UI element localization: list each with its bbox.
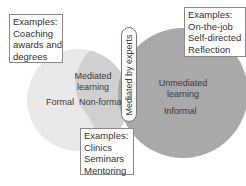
mediated-by-experts-label: Mediated by experts [124, 34, 134, 115]
examples-heading: Examples: [84, 130, 131, 142]
unmediated-title-line2: learning [150, 89, 216, 100]
nonformal-label: Non-formal [79, 97, 124, 108]
unmediated-learning-title: Unmediated learning [150, 78, 216, 100]
example-item: Seminars [84, 153, 131, 165]
example-item: Clinics [84, 142, 131, 154]
example-item: awards and [13, 39, 60, 51]
learning-types-diagram: Mediated learning Formal Non-formal Unme… [0, 0, 246, 186]
example-item: Mentoring [84, 165, 131, 177]
formal-label: Formal [46, 97, 74, 108]
examples-heading: Examples: [13, 16, 60, 28]
mediated-by-experts-divider: Mediated by experts [121, 27, 137, 122]
informal-label: Informal [164, 106, 197, 117]
mediated-title-line1: Mediated [68, 71, 118, 82]
example-item: degrees [13, 51, 60, 63]
example-item: Self-directed [188, 32, 243, 44]
example-item: Coaching [13, 28, 60, 40]
unmediated-title-line1: Unmediated [150, 78, 216, 89]
formal-examples-box: Examples: Coaching awards and degrees [9, 14, 63, 63]
informal-examples-box: Examples: On-the-job Self-directed Refle… [184, 7, 246, 57]
nonformal-examples-box: Examples: Clinics Seminars Mentoring [80, 128, 134, 175]
mediated-title-line2: learning [68, 82, 118, 93]
mediated-learning-title: Mediated learning [68, 71, 118, 93]
example-item: On-the-job [188, 21, 243, 33]
examples-heading: Examples: [188, 9, 243, 21]
example-item: Reflection [188, 44, 243, 56]
